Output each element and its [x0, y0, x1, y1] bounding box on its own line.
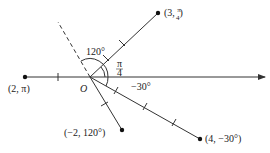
arc-neg30: [106, 77, 108, 86]
arc-pi-over-4: [101, 67, 105, 77]
point-2-pi: [23, 75, 27, 79]
label-neg2-120: (−2, 120°): [64, 127, 105, 139]
polar-diagram: (3, π4) (2, π) (−2, 120°) (4, −30°) O 12…: [0, 0, 270, 153]
angle-label-neg30: −30°: [131, 81, 151, 92]
origin-label: O: [80, 83, 87, 94]
label-3-pi-over-4: (3, π4): [164, 6, 183, 22]
angle-label-120: 120°: [86, 46, 105, 57]
angle-label-pi-over-4-den: 4: [117, 67, 122, 78]
label-4-neg30: (4, −30°): [205, 133, 241, 145]
point-neg2-120: [120, 128, 124, 132]
tick: [119, 40, 125, 46]
label-2-pi: (2, π): [8, 83, 30, 95]
point-4-neg30: [198, 137, 202, 141]
point-3-pi-over-4: [156, 11, 160, 15]
